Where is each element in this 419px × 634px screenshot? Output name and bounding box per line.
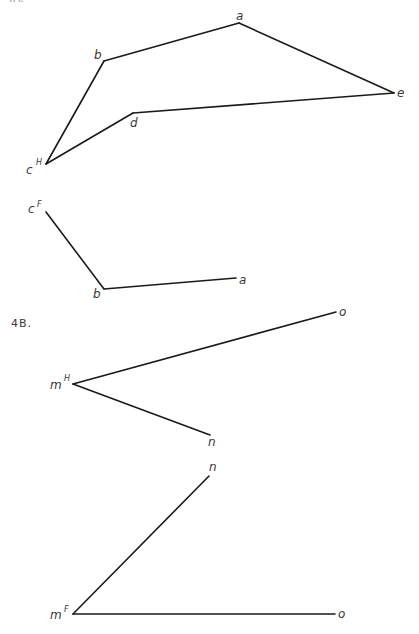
problem-4a-top-view: abcHde	[26, 9, 404, 177]
plane-superscript-F: F	[64, 605, 69, 614]
vertex-label-m: m	[50, 608, 62, 622]
vertex-label-o: o	[339, 305, 346, 319]
plane-superscript-H: H	[36, 158, 42, 167]
vertex-label-e: e	[397, 86, 404, 100]
problem-4b-front-view: mFno	[50, 460, 345, 622]
problem-4a-front-view: cFba	[28, 200, 246, 301]
drawing-layer: abcHdecFbamHnomFno	[26, 9, 404, 622]
edge-ed	[133, 93, 394, 113]
vertex-label-c: c	[26, 163, 33, 177]
vertex-label-n: n	[209, 460, 217, 474]
problem-4a-label-cut: 4A.	[6, 0, 24, 5]
edge-ba	[104, 23, 239, 61]
vertex-label-n: n	[208, 435, 216, 449]
edge-cb	[46, 212, 104, 289]
edge-mn	[73, 476, 209, 614]
edge-mn	[73, 384, 210, 435]
edge-ae	[239, 23, 394, 93]
vertex-label-b: b	[93, 287, 101, 301]
plane-superscript-F: F	[37, 200, 42, 209]
edge-dc	[46, 113, 133, 164]
vertex-label-o: o	[338, 607, 345, 621]
vertex-label-b: b	[94, 48, 102, 62]
problem-4b-top-view: mHno	[50, 305, 346, 449]
plane-superscript-H: H	[64, 374, 70, 383]
vertex-label-a: a	[236, 9, 243, 23]
vertex-label-m: m	[50, 378, 62, 392]
problem-4b-label: 4B.	[11, 317, 32, 330]
edge-mo	[73, 312, 336, 384]
vertex-label-c: c	[28, 202, 35, 216]
descriptive-geometry-diagram: 4A. abcHdecFbamHnomFno 4B.	[0, 0, 419, 634]
vertex-label-a: a	[239, 273, 246, 287]
edge-ba	[104, 278, 236, 289]
vertex-label-d: d	[130, 116, 138, 130]
edge-cb	[46, 61, 104, 164]
